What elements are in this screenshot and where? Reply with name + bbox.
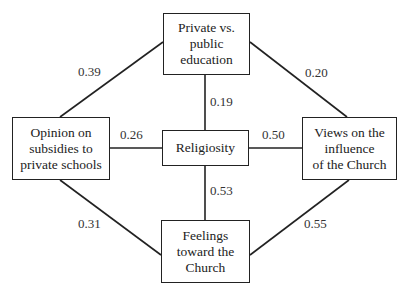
node-private-vs-public-education: Private vs. public education	[163, 13, 250, 75]
node-label: Private vs. public education	[178, 20, 235, 68]
node-label: Opinion on subsidies to private schools	[20, 125, 101, 173]
edge-top-left	[60, 42, 163, 117]
edge-label-center-bottom: 0.53	[210, 184, 233, 198]
edge-label-top-left: 0.39	[78, 65, 101, 79]
node-label: Views on the influence of the Church	[312, 125, 386, 173]
edge-label-center-right: 0.50	[262, 128, 285, 142]
edge-left-bottom	[60, 180, 161, 255]
node-religiosity: Religiosity	[162, 130, 249, 166]
edge-top-right	[250, 42, 347, 117]
edge-label-left-center: 0.26	[120, 128, 143, 142]
node-label: Feelings toward the Church	[177, 228, 234, 276]
node-label: Religiosity	[176, 140, 235, 156]
edge-label-left-bottom: 0.31	[78, 217, 101, 231]
edge-label-top-right: 0.20	[305, 66, 328, 80]
node-views-on-church-influence: Views on the influence of the Church	[302, 117, 397, 180]
node-opinion-on-subsidies: Opinion on subsidies to private schools	[12, 117, 110, 180]
edge-right-bottom	[250, 180, 349, 255]
edge-label-right-bottom: 0.55	[304, 217, 327, 231]
edge-label-top-center: 0.19	[210, 95, 233, 109]
node-feelings-toward-church: Feelings toward the Church	[161, 220, 250, 283]
